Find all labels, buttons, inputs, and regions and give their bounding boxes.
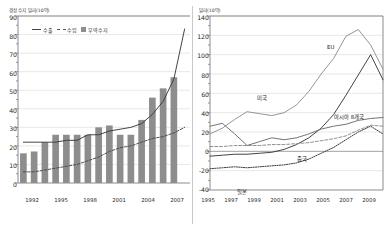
legend-label-balance: 무역수지	[88, 26, 108, 33]
series-label-japan: 일본	[237, 188, 247, 196]
right-ytick-60: 60	[193, 91, 209, 98]
series-label-eu: EU	[327, 44, 334, 50]
right-xtick-2009: 2009	[357, 197, 381, 203]
right-xtick-2003: 2003	[288, 197, 312, 203]
left-xtick-2004: 2004	[133, 197, 163, 203]
left-ytick-50: 50	[0, 88, 17, 95]
left-ytick-80: 80	[0, 33, 17, 40]
right-xtick-2007: 2007	[334, 197, 358, 203]
left-chart-legend: 수출 수입 무역수지	[32, 26, 108, 33]
right-ytick-120: 120	[193, 33, 209, 40]
legend-item-export: 수출	[32, 26, 53, 33]
right-y-axis-unit-label: 달러(10억)	[199, 7, 220, 13]
figure-two-panel-charts: 경상 수지 달러(10억) 90 80 70 60 50 40 30 20 10…	[0, 0, 387, 230]
right-xtick-1999: 1999	[242, 197, 266, 203]
legend-label-import: 수입	[67, 26, 77, 33]
left-xtick-2001: 2001	[104, 197, 134, 203]
left-xtick-1992: 1992	[17, 197, 47, 203]
legend-item-import: 수입	[57, 26, 78, 33]
series-label-china: 중국	[297, 155, 307, 163]
left-ytick-30: 30	[0, 125, 17, 132]
filled-square-icon	[81, 27, 86, 32]
legend-label-export: 수출	[43, 26, 53, 33]
series-label-usa: 미국	[257, 94, 267, 102]
series-label-asia8: 아시아 8개국	[334, 113, 364, 121]
left-xtick-1995: 1995	[46, 197, 76, 203]
left-ytick-60: 60	[0, 70, 17, 77]
right-ytick-neg40: -40	[193, 186, 209, 193]
right-xtick-2001: 2001	[265, 197, 289, 203]
right-ytick-0: 0	[193, 148, 209, 155]
left-ytick-90: 90	[0, 14, 17, 21]
left-ytick-20: 20	[0, 144, 17, 151]
left-xtick-1998: 1998	[75, 197, 105, 203]
left-xtick-2007: 2007	[162, 197, 192, 203]
right-ytick-140: 140	[193, 14, 209, 21]
left-ytick-70: 70	[0, 51, 17, 58]
left-ytick-0: 0	[0, 181, 17, 188]
right-ytick-40: 40	[193, 110, 209, 117]
chart-panel-left: 경상 수지 달러(10억) 90 80 70 60 50 40 30 20 10…	[0, 0, 194, 230]
right-xtick-1995: 1995	[196, 197, 220, 203]
right-xtick-2005: 2005	[311, 197, 335, 203]
legend-item-balance: 무역수지	[81, 26, 108, 33]
right-xtick-1997: 1997	[219, 197, 243, 203]
right-ytick-80: 80	[193, 72, 209, 79]
solid-line-icon	[32, 29, 41, 30]
left-plot-area	[0, 0, 194, 230]
left-ytick-10: 10	[0, 162, 17, 169]
left-ytick-40: 40	[0, 107, 17, 114]
right-ytick-neg20: -20	[193, 167, 209, 174]
chart-panel-right: 달러(10억) 140 120 100 80 60 40 20 0 -20 -4…	[193, 0, 387, 230]
left-y-axis-unit-label: 경상 수지 달러(10억)	[9, 7, 49, 13]
dashed-line-icon	[57, 29, 66, 30]
right-ytick-20: 20	[193, 129, 209, 136]
right-ytick-100: 100	[193, 52, 209, 59]
